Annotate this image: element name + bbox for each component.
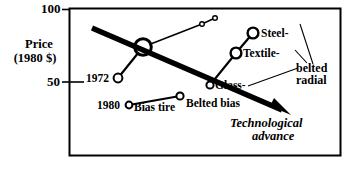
label-bias-tire: Bias tire xyxy=(134,101,175,113)
label-glass: Glass- xyxy=(215,79,246,91)
label-advance: advance xyxy=(252,130,294,143)
label-belted-bias: Belted bias xyxy=(186,97,240,109)
label-steel: Steel- xyxy=(261,27,288,39)
label-1980: 1980 xyxy=(97,99,120,111)
marker-belted-bias xyxy=(176,92,183,99)
marker-textile xyxy=(231,48,242,59)
marker-1972 xyxy=(114,74,123,83)
figure-root: 100 50 Price (1980 $) 1972 1980 Bias tir… xyxy=(0,0,348,171)
label-textile: Textile- xyxy=(243,47,280,59)
label-belted-radial-line2: radial xyxy=(296,74,327,86)
marker-1980-bias-tire xyxy=(126,102,133,109)
y-tick-label-100: 100 xyxy=(41,2,61,16)
y-tick-label-50: 50 xyxy=(47,75,60,89)
marker-small-upper-2 xyxy=(213,16,218,21)
label-1972: 1972 xyxy=(86,72,109,84)
y-axis-title-line2: (1980 $) xyxy=(4,52,66,65)
marker-small-upper-1 xyxy=(200,22,205,27)
y-axis-title-line1: Price xyxy=(10,38,68,51)
marker-steel xyxy=(248,28,259,39)
